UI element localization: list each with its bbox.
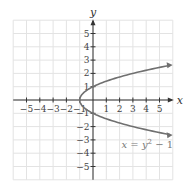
y-tick-label: −4 bbox=[76, 148, 90, 158]
y-tick-label: 4 bbox=[84, 42, 90, 52]
x-tick-label: −5 bbox=[20, 104, 34, 114]
x-tick-label: 3 bbox=[130, 104, 136, 114]
arrowhead-icon bbox=[167, 132, 173, 138]
y-tick-label: 3 bbox=[84, 55, 90, 65]
y-tick-label: 5 bbox=[84, 29, 90, 39]
y-axis-label: y bbox=[89, 6, 97, 19]
arrowhead-icon bbox=[167, 62, 173, 68]
x-tick-label: 4 bbox=[143, 104, 149, 114]
y-tick-label: −5 bbox=[76, 162, 90, 172]
x-tick-label: 5 bbox=[157, 104, 163, 114]
axes bbox=[13, 19, 174, 180]
y-tick-label: 2 bbox=[84, 68, 90, 78]
x-tick-label: −3 bbox=[46, 104, 60, 114]
x-tick-label: −2 bbox=[60, 104, 73, 114]
x-axis-label: x bbox=[177, 94, 184, 107]
x-tick-label: 1 bbox=[103, 104, 109, 114]
parabola-chart: −5−4−3−2−11234554321−1−2−3−4−5 x y x = y… bbox=[0, 0, 191, 193]
equation-label: x = y2 − 1 bbox=[122, 138, 174, 150]
x-tick-label: −4 bbox=[33, 104, 47, 114]
y-tick-label: −3 bbox=[76, 135, 90, 145]
y-tick-label: −2 bbox=[76, 122, 89, 132]
x-tick-label: 2 bbox=[117, 104, 123, 114]
